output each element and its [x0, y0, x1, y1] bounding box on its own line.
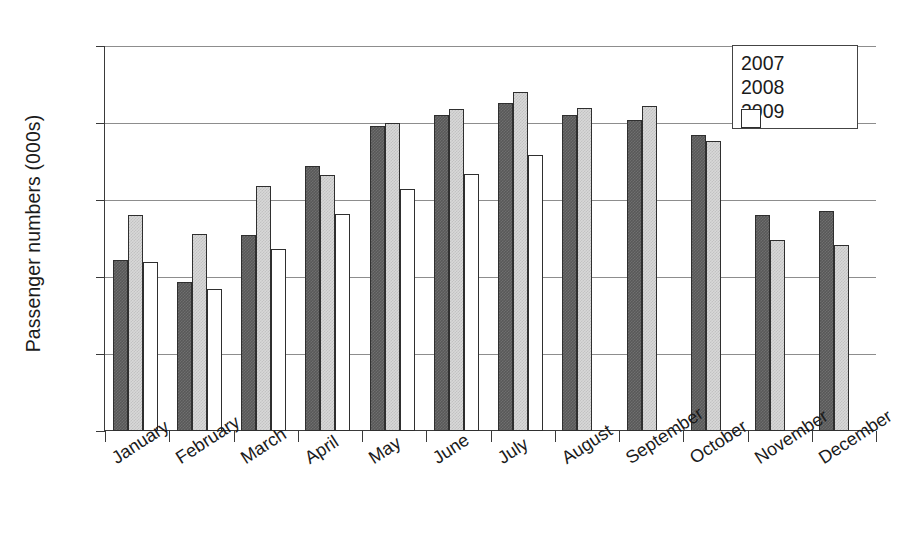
- bar-group: [177, 46, 222, 431]
- x-axis-label-june: June: [429, 430, 473, 469]
- bar-2007-july: [498, 103, 513, 431]
- bar-group: [370, 46, 415, 431]
- bar-2008-july: [513, 92, 528, 431]
- bar-group: [305, 46, 350, 431]
- y-tick-mark: [96, 46, 105, 47]
- bar-2008-august: [577, 108, 592, 431]
- y-tick-mark: [96, 200, 105, 201]
- bar-2008-october: [706, 141, 721, 431]
- legend: 2007 2008 2009: [732, 45, 858, 129]
- x-tick-mark: [105, 431, 106, 442]
- x-tick-mark: [426, 431, 427, 442]
- bar-2009-february: [207, 289, 222, 431]
- bar-group: [113, 46, 158, 431]
- x-tick-mark: [555, 431, 556, 442]
- bar-group: [562, 46, 607, 431]
- x-tick-mark: [362, 431, 363, 442]
- bar-2007-october: [691, 135, 706, 431]
- y-axis-title: Passenger numbers (000s): [22, 69, 45, 399]
- bar-2009-april: [335, 214, 350, 431]
- x-axis-label-may: May: [365, 432, 405, 468]
- bar-2009-july: [528, 155, 543, 431]
- legend-label-2007: 2007: [741, 54, 784, 74]
- bar-2008-january: [128, 215, 143, 431]
- bar-2007-june: [434, 115, 449, 431]
- bar-group: [691, 46, 736, 431]
- bar-2007-november: [755, 215, 770, 431]
- bar-2007-february: [177, 282, 192, 431]
- y-tick-mark: [96, 277, 105, 278]
- bar-2007-may: [370, 126, 385, 431]
- bar-2009-june: [464, 174, 479, 431]
- bar-2008-march: [256, 186, 271, 431]
- bar-group: [498, 46, 543, 431]
- bar-2008-november: [770, 240, 785, 431]
- bar-2007-april: [305, 166, 320, 431]
- bar-2007-december: [819, 211, 834, 431]
- bar-2008-february: [192, 234, 207, 431]
- bar-group: [241, 46, 286, 431]
- x-axis-labels: JanuaryFebruaryMarchAprilMayJuneJulyAugu…: [104, 447, 894, 547]
- x-tick-mark: [491, 431, 492, 442]
- bar-2007-january: [113, 260, 128, 431]
- y-tick-mark: [96, 354, 105, 355]
- x-axis-label-july: July: [494, 434, 532, 469]
- bar-2008-may: [385, 123, 400, 431]
- legend-item-2007: 2007: [741, 52, 857, 76]
- x-axis-label-april: April: [301, 431, 343, 468]
- legend-label-2008: 2008: [741, 78, 784, 98]
- bar-group: [627, 46, 672, 431]
- legend-item-2008: 2008: [741, 76, 857, 100]
- bar-2008-december: [834, 245, 849, 431]
- bar-2009-january: [143, 262, 158, 431]
- bar-chart: Passenger numbers (000s) 050100150200250…: [0, 0, 915, 548]
- bar-2008-september: [642, 106, 657, 431]
- bar-group: [434, 46, 479, 431]
- bar-2009-may: [400, 189, 415, 431]
- legend-item-2009: 2009: [741, 100, 857, 124]
- bar-2009-march: [271, 249, 286, 431]
- x-tick-mark: [298, 431, 299, 442]
- bar-2008-april: [320, 175, 335, 431]
- bar-2008-june: [449, 109, 464, 431]
- x-tick-mark: [619, 431, 620, 442]
- bar-2007-august: [562, 115, 577, 431]
- legend-swatch-2009: [741, 109, 761, 128]
- bar-2007-september: [627, 120, 642, 431]
- y-tick-mark: [96, 123, 105, 124]
- bar-2007-march: [241, 235, 256, 431]
- y-tick-mark: [96, 431, 105, 432]
